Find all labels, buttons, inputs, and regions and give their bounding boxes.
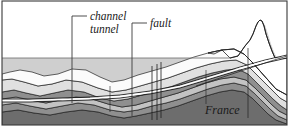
channel-tunnel-label-line2: tunnel bbox=[90, 23, 119, 35]
channel-tunnel-label-line1: channel bbox=[90, 10, 126, 22]
cross-section-canvas: channel tunnel fault France bbox=[0, 0, 303, 135]
geological-cross-section-figure: channel tunnel fault France bbox=[0, 0, 303, 135]
fault-label: fault bbox=[150, 17, 172, 30]
section-body bbox=[2, 1, 287, 126]
france-label: France bbox=[204, 103, 240, 117]
